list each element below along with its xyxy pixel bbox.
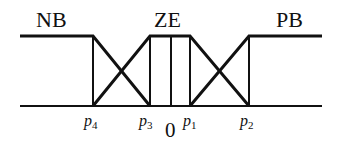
nb-membership <box>20 36 150 106</box>
tick-p2: p2 <box>240 113 254 131</box>
set-label-nb: NB <box>36 9 67 31</box>
fuzzy-membership-diagram: NB ZE PB p4 p3 p1 p2 0 <box>0 0 337 148</box>
set-label-pb: PB <box>276 9 303 31</box>
tick-p4: p4 <box>84 113 98 131</box>
pb-membership <box>190 36 322 106</box>
tick-p3: p3 <box>139 113 153 131</box>
origin-label: 0 <box>165 120 176 141</box>
set-label-ze: ZE <box>154 9 181 31</box>
tick-p1: p1 <box>183 113 197 131</box>
